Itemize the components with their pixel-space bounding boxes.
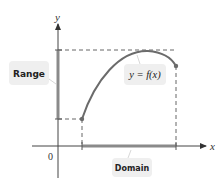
x-axis-label: x xyxy=(209,140,215,152)
origin-label: 0 xyxy=(48,151,53,162)
range-callout: Range xyxy=(9,61,56,85)
domain-label: Domain xyxy=(115,164,150,173)
y-axis-label: y xyxy=(54,11,60,23)
range-label: Range xyxy=(13,69,45,79)
domain-callout: Domain xyxy=(112,150,152,177)
curve-start-point xyxy=(80,117,84,121)
curve-end-point xyxy=(174,64,178,68)
function-label: y = f(x) xyxy=(128,69,161,81)
function-callout: y = f(x) xyxy=(124,55,166,85)
domain-range-diagram: Range y = f(x) Domain x y 0 xyxy=(0,0,218,186)
